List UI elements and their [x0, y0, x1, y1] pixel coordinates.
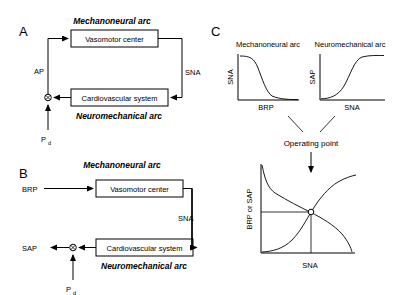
panel-b-mechanoneural-title: Mechanoneural arc [83, 160, 161, 170]
arrow-left-to-operating-point [288, 116, 303, 132]
panel-b-brp-label: BRP [22, 185, 37, 194]
chart-neuromechanical-arc: Neuromechanical arc SAP SNA [308, 40, 386, 112]
panel-b-neuromechanical-title: Neuromechanical arc [101, 261, 187, 271]
chart-operating-point-main: BRP or SAP SNA [245, 164, 356, 270]
panel-b-pd-subscript: d [73, 290, 76, 295]
chart-mechanoneural-xlabel: BRP [258, 103, 273, 112]
panel-c: C Mechanoneural arc SNA BRP Neuromechani… [211, 24, 386, 270]
chart-mechanoneural-title: Mechanoneural arc [236, 40, 300, 49]
panel-a-sna-label: SNA [185, 68, 200, 77]
panel-b-cardiovascular-system-label: Cardiovascular system [107, 244, 183, 253]
panel-b-sap-label: SAP [22, 244, 37, 253]
panel-a-wire-ap-to-vasomotor [48, 39, 68, 99]
chart-main-xlabel: SNA [302, 261, 317, 270]
chart-neuromechanical-axes [320, 54, 385, 100]
panel-b-pd-label: P [66, 285, 71, 294]
panel-c-letter: C [211, 24, 220, 39]
chart-mechanoneural-arc: Mechanoneural arc SNA BRP [226, 40, 300, 112]
panel-a-pd-label: P [41, 135, 46, 144]
chart-neuromechanical-curve [321, 55, 384, 98]
panel-b-sna-label: SNA [178, 214, 193, 223]
panel-a-cardiovascular-system-label: Cardiovascular system [82, 94, 158, 103]
chart-mechanoneural-ylabel: SNA [226, 69, 235, 84]
panel-a-neuromechanical-title: Neuromechanical arc [76, 111, 162, 121]
panel-a-pd-subscript: d [48, 140, 51, 146]
arrow-right-to-operating-point [320, 116, 335, 132]
panel-a-letter: A [19, 24, 28, 39]
chart-main-ylabel: BRP or SAP [245, 188, 254, 229]
chart-mechanoneural-curve [240, 56, 298, 100]
panel-b: B Mechanoneural arc Vasomotor center BRP… [19, 160, 197, 295]
chart-main-curve-decreasing [262, 165, 352, 252]
figure-canvas: A Mechanoneural arc Vasomotor center Car… [0, 0, 405, 295]
panel-a-mechanoneural-title: Mechanoneural arc [73, 16, 151, 26]
panel-a-vasomotor-center-label: Vasomotor center [85, 35, 144, 44]
chart-mechanoneural-axes [238, 54, 299, 100]
chart-main-operating-point-marker [308, 209, 314, 215]
panel-b-vasomotor-center-label: Vasomotor center [110, 185, 169, 194]
chart-main-axes [261, 164, 355, 253]
chart-neuromechanical-xlabel: SNA [344, 103, 359, 112]
panel-b-letter: B [19, 166, 28, 181]
figure-root: A Mechanoneural arc Vasomotor center Car… [0, 0, 405, 295]
panel-a-ap-label: AP [34, 67, 44, 76]
chart-neuromechanical-title: Neuromechanical arc [315, 40, 386, 49]
chart-neuromechanical-ylabel: SAP [308, 69, 317, 84]
panel-a: A Mechanoneural arc Vasomotor center Car… [19, 16, 200, 146]
operating-point-label: Operating point [284, 139, 339, 148]
